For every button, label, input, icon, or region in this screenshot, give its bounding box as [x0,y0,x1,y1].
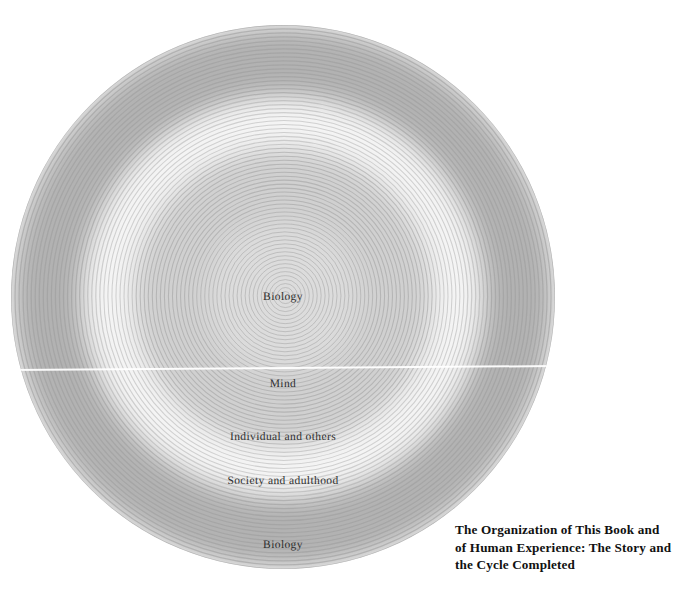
caption-line-1: The Organization of This Book and [455,521,687,539]
band-fills [11,25,555,569]
figure-canvas: Biology Mind Individual and others Socie… [0,0,693,602]
caption-line-3: the Cycle Completed [455,556,687,574]
concentric-rings-diagram [0,0,693,602]
caption-line-2: of Human Experience: The Story and [455,539,687,557]
figure-caption: The Organization of This Book and of Hum… [455,521,687,574]
